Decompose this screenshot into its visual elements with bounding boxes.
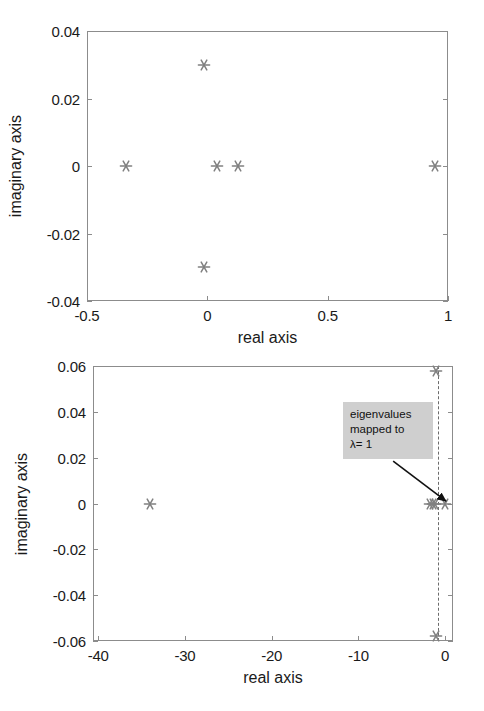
y-tick-right (443, 99, 448, 100)
bottom-scatter-panel: -40-30-20-100-0.06-0.04-0.0200.020.040.0… (0, 355, 484, 711)
x-tick-label: 0.5 (318, 307, 338, 324)
y-tick (87, 234, 92, 235)
data-point-marker (204, 65, 205, 66)
data-point-marker (435, 166, 436, 167)
x-tick-label: -0.5 (74, 307, 99, 324)
y-tick (87, 31, 92, 32)
plot-axes-box (87, 31, 448, 301)
y-tick-right (443, 234, 448, 235)
y-tick-right (443, 166, 448, 167)
y-tick-label: 0.02 (52, 90, 80, 107)
x-tick-label: 0 (203, 307, 211, 324)
y-tick (87, 166, 92, 167)
top-scatter-panel: -0.500.51-0.04-0.0200.020.04real axisima… (0, 0, 484, 355)
x-tick (207, 296, 208, 301)
data-point-marker (204, 267, 205, 268)
y-tick-right (443, 301, 448, 302)
y-tick-right (443, 31, 448, 32)
y-tick (87, 301, 92, 302)
x-tick (328, 296, 329, 301)
data-point-marker (217, 166, 218, 167)
y-tick-label: -0.02 (47, 225, 80, 242)
y-tick-label: 0.04 (52, 23, 80, 40)
eigenvalue-figure: -0.500.51-0.04-0.0200.020.04real axisima… (0, 0, 484, 711)
x-tick (448, 296, 449, 301)
y-tick-label: -0.04 (47, 293, 80, 310)
data-point-marker (238, 166, 239, 167)
y-axis-label: imaginary axis (7, 115, 25, 217)
annotation-arrow (0, 355, 484, 711)
x-tick-label: 1 (444, 307, 452, 324)
y-tick-label: 0 (72, 158, 80, 175)
data-point-marker (126, 166, 127, 167)
x-axis-label: real axis (238, 329, 298, 347)
y-tick (87, 99, 92, 100)
